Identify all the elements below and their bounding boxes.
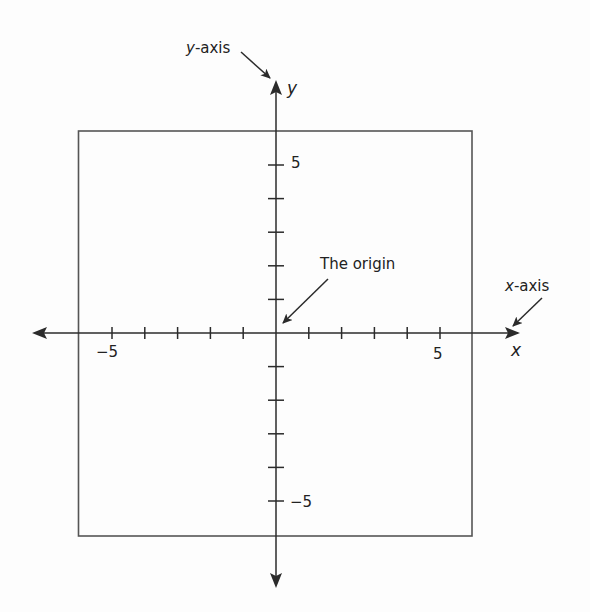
x-axis-variable-label: x — [511, 342, 521, 359]
y-axis-callout-arrow — [241, 52, 270, 78]
x-axis-callout-var: x — [505, 277, 514, 295]
y-axis-callout-var: y — [186, 39, 195, 57]
x-axis-callout-label: x-axis — [505, 279, 549, 294]
x-tick-label-pos5: 5 — [433, 347, 443, 362]
x-axis-callout-suffix: -axis — [514, 277, 549, 295]
y-axis-callout-label: y-axis — [186, 41, 230, 56]
coordinate-plane-figure: y-axis x-axis The origin y x −5 5 5 −5 — [0, 0, 590, 612]
x-tick-label-neg5: −5 — [96, 345, 118, 360]
y-tick-label-neg5: −5 — [290, 495, 312, 510]
origin-callout-label: The origin — [320, 257, 395, 272]
x-axis-callout-arrow — [513, 298, 542, 326]
y-axis-variable-label: y — [287, 80, 297, 97]
origin-callout-arrow — [283, 279, 328, 323]
y-tick-label-pos5: 5 — [291, 156, 301, 171]
y-axis-callout-suffix: -axis — [195, 39, 230, 57]
